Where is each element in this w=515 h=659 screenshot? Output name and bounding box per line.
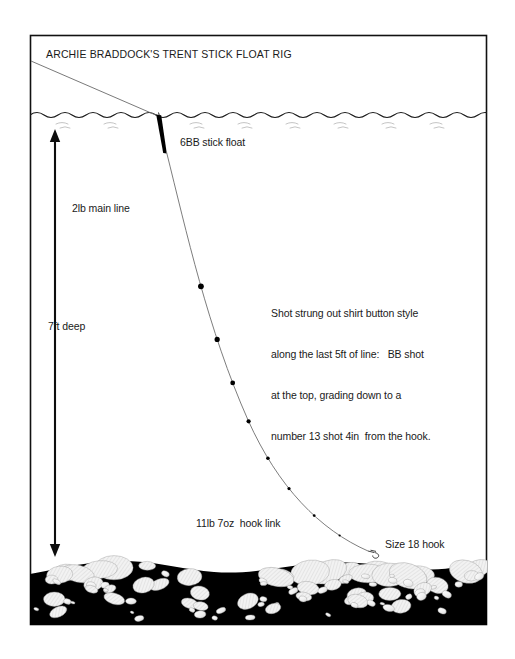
shot-bead [198, 283, 204, 289]
shotting-note-line-2: along the last 5ft of line: BB shot [271, 348, 430, 362]
hook-link-label: 11lb 7oz hook link [196, 517, 280, 529]
shot-bead [339, 534, 341, 536]
gravel-stone [43, 592, 65, 607]
shot-bead [247, 419, 251, 423]
gravel-stone [390, 574, 395, 577]
main-line-label: 2lb main line [72, 202, 130, 214]
fishing-rig-diagram: ARCHIE BRADDOCK'S TRENT STICK FLOAT RIG … [0, 0, 515, 659]
shot-bead [215, 337, 220, 342]
shot-bead [287, 487, 290, 490]
shot-bead [266, 456, 270, 460]
gravel-stone [455, 582, 463, 588]
gravel-stone [369, 582, 377, 587]
shotting-note: Shot strung out shirt button style along… [271, 280, 430, 470]
gravel-stone [379, 587, 401, 600]
shot-bead [230, 381, 235, 386]
gravel-stone [260, 581, 267, 585]
shotting-note-line-1: Shot strung out shirt button style [271, 307, 430, 321]
float-label: 6BB stick float [180, 136, 245, 148]
shotting-note-line-3: at the top, grading down to a [271, 389, 430, 403]
gravel-stone [126, 598, 137, 605]
shotting-note-line-4: number 13 shot 4in from the hook. [271, 430, 430, 444]
shot-bead [313, 514, 316, 517]
depth-label: 7ft deep [48, 320, 85, 332]
diagram-title: ARCHIE BRADDOCK'S TRENT STICK FLOAT RIG [46, 48, 292, 60]
hook-label: Size 18 hook [385, 538, 445, 550]
